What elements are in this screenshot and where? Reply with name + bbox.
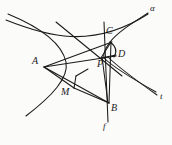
label-t: t [160,92,163,101]
label-D: D [118,49,125,59]
label-B: B [111,103,117,113]
label-alpha: α [150,4,155,13]
label-P: P [97,59,103,69]
label-M: M [61,87,69,97]
geometry-figure: α C D A P M B t f [0,0,172,145]
figure-canvas [0,0,172,145]
label-C: C [106,26,113,36]
label-f: f [103,122,106,131]
label-A: A [32,56,38,66]
